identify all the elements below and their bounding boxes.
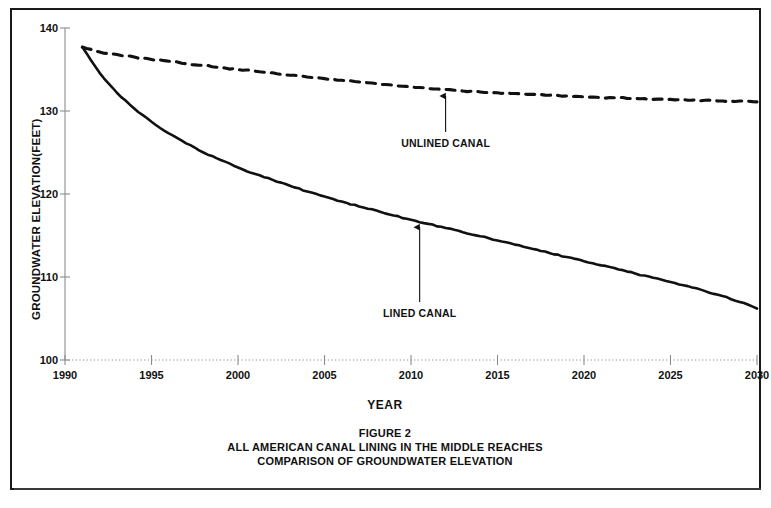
caption-line-3: COMPARISON OF GROUNDWATER ELEVATION <box>227 454 542 468</box>
y-axis-title: GROUNDWATER ELEVATION(FEET) <box>30 118 42 320</box>
y-tick-label: 120 <box>30 188 58 200</box>
figure-caption: FIGURE 2 ALL AMERICAN CANAL LINING IN TH… <box>227 426 542 468</box>
x-tick-label: 2025 <box>658 369 682 381</box>
y-tick-label: 100 <box>30 354 58 366</box>
caption-line-2: ALL AMERICAN CANAL LINING IN THE MIDDLE … <box>227 440 542 454</box>
x-tick-label: 2015 <box>485 369 509 381</box>
y-tick-label: 110 <box>30 271 58 283</box>
x-tick-label: 2010 <box>399 369 423 381</box>
x-tick-label: 1990 <box>53 369 77 381</box>
caption-line-1: FIGURE 2 <box>227 426 542 440</box>
y-tick-label: 140 <box>30 22 58 34</box>
x-tick-label: 2000 <box>226 369 250 381</box>
x-tick-label: 2005 <box>312 369 336 381</box>
y-tick-label: 130 <box>30 105 58 117</box>
figure-border <box>10 8 761 490</box>
x-tick-label: 2020 <box>572 369 596 381</box>
x-axis-title: YEAR <box>367 398 402 412</box>
annotation-label: UNLINED CANAL <box>401 137 490 149</box>
annotation-label: LINED CANAL <box>383 307 456 319</box>
x-tick-label: 2030 <box>745 369 769 381</box>
x-tick-label: 1995 <box>139 369 163 381</box>
